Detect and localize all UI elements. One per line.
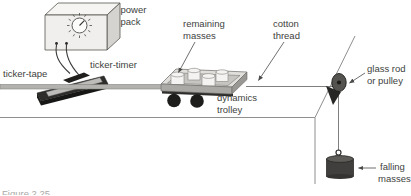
leader-glass-rod [350, 73, 366, 83]
trolley-wheel-left [167, 94, 181, 108]
terminal-right [65, 42, 68, 45]
trolley-wheel-right [190, 94, 204, 108]
label-dynamics-trolley-line2: trolley [217, 104, 243, 115]
mass-bottom [327, 174, 354, 179]
label-dynamics-trolley-line1: dynamics [217, 92, 257, 103]
terminal-left [55, 42, 58, 45]
mass-cylinder-top [171, 72, 184, 77]
cotton-thread-line [246, 87, 339, 151]
mass-hook [336, 150, 341, 155]
label-cotton-thread-line2: thread [273, 30, 300, 41]
mass-cylinder-top [216, 70, 228, 74]
label-falling-masses-line2: masses [378, 173, 411, 184]
falling-masses-device [327, 150, 354, 179]
figure-canvas: power pack remaining masses cotton threa… [0, 0, 411, 195]
label-power-pack-line2: pack [121, 16, 141, 27]
figure-caption: Figure 2.25 [2, 188, 50, 196]
mass-top [327, 156, 354, 163]
label-glass-rod-line2: or pulley [367, 75, 403, 86]
leader-remaining-masses [179, 42, 196, 73]
label-remaining-masses-line1: remaining [183, 18, 225, 29]
bench [0, 36, 355, 184]
label-ticker-timer: ticker-timer [90, 59, 137, 70]
label-power-pack-line1: power [121, 4, 147, 15]
label-glass-rod-line1: glass rod [367, 63, 406, 74]
label-cotton-thread-line1: cotton [273, 18, 299, 29]
pulley-device [326, 74, 346, 106]
leader-lines [179, 42, 377, 168]
mass-cylinder-top [202, 74, 215, 79]
apparatus-diagram: power pack remaining masses cotton threa… [0, 0, 411, 195]
power-pack [45, 3, 120, 50]
label-falling-masses-line1: falling [380, 161, 405, 172]
mass-cylinder-top [188, 68, 200, 72]
pulley-hub [337, 80, 341, 84]
leader-cotton-thread [259, 42, 285, 81]
label-ticker-tape: ticker-tape [3, 68, 47, 79]
label-remaining-masses-line2: masses [183, 30, 216, 41]
ticker-tape-strip [0, 85, 163, 90]
